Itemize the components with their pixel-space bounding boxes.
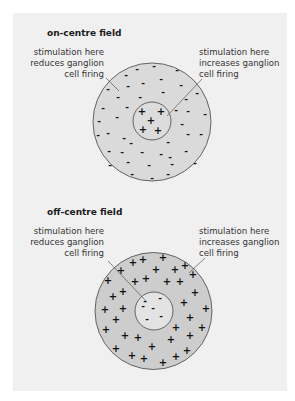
svg-text:-: - bbox=[179, 80, 183, 90]
off-right-label-line3: cell firing bbox=[199, 248, 239, 258]
svg-text:-: - bbox=[175, 65, 179, 75]
svg-text:+: + bbox=[142, 273, 150, 284]
svg-text:-: - bbox=[170, 159, 174, 169]
svg-text:-: - bbox=[107, 146, 111, 156]
svg-text:-: - bbox=[145, 314, 149, 324]
on-right-label-line2: increases ganglion bbox=[199, 58, 280, 68]
svg-text:+: + bbox=[119, 286, 127, 297]
svg-text:+: + bbox=[139, 124, 147, 135]
svg-text:+: + bbox=[157, 106, 165, 117]
svg-text:+: + bbox=[112, 343, 120, 354]
svg-text:+: + bbox=[139, 254, 147, 265]
svg-text:+: + bbox=[138, 106, 146, 117]
svg-text:-: - bbox=[180, 119, 184, 129]
svg-text:-: - bbox=[122, 133, 126, 143]
svg-text:+: + bbox=[128, 350, 136, 361]
svg-text:-: - bbox=[166, 169, 170, 179]
svg-text:+: + bbox=[180, 297, 188, 308]
svg-text:-: - bbox=[159, 311, 163, 321]
svg-text:-: - bbox=[147, 160, 151, 170]
svg-text:+: + bbox=[191, 287, 199, 298]
svg-text:+: + bbox=[154, 125, 162, 136]
svg-text:+: + bbox=[152, 264, 160, 275]
off-left-label-line1: stimulation here bbox=[34, 226, 104, 236]
svg-text:+: + bbox=[102, 324, 110, 335]
svg-text:+: + bbox=[159, 357, 167, 368]
svg-text:+: + bbox=[172, 351, 180, 362]
off-centre-field: off-centre field stimulation here reduce… bbox=[30, 207, 279, 370]
svg-text:+: + bbox=[202, 303, 210, 314]
svg-text:+: + bbox=[119, 303, 127, 314]
svg-text:-: - bbox=[135, 64, 139, 74]
svg-text:-: - bbox=[108, 160, 112, 170]
svg-text:+: + bbox=[186, 330, 194, 341]
svg-text:+: + bbox=[189, 269, 197, 280]
svg-text:+: + bbox=[159, 252, 167, 263]
svg-text:+: + bbox=[183, 345, 191, 356]
svg-text:+: + bbox=[198, 322, 206, 333]
svg-text:+: + bbox=[104, 275, 112, 286]
off-right-label-line2: increases ganglion bbox=[199, 237, 280, 247]
svg-text:-: - bbox=[106, 128, 110, 138]
svg-text:+: + bbox=[129, 257, 137, 268]
svg-text:-: - bbox=[140, 147, 144, 157]
off-right-label-line1: stimulation here bbox=[199, 226, 269, 236]
svg-text:-: - bbox=[126, 81, 130, 91]
svg-text:-: - bbox=[166, 137, 170, 147]
on-centre-field: on-centre field stimulation here reduces… bbox=[30, 28, 279, 183]
svg-text:+: + bbox=[140, 353, 148, 364]
svg-text:-: - bbox=[184, 94, 188, 104]
svg-text:-: - bbox=[115, 112, 119, 122]
off-left-label-line3: cell firing bbox=[64, 248, 104, 258]
svg-text:-: - bbox=[161, 87, 165, 97]
svg-text:-: - bbox=[193, 158, 197, 168]
off-left-label-line2: reduces ganglion bbox=[30, 237, 104, 247]
svg-text:-: - bbox=[138, 92, 142, 102]
svg-text:+: + bbox=[117, 265, 125, 276]
svg-text:-: - bbox=[120, 147, 124, 157]
on-centre-title: on-centre field bbox=[47, 28, 121, 38]
svg-text:-: - bbox=[101, 103, 105, 113]
svg-text:+: + bbox=[131, 276, 139, 287]
svg-text:-: - bbox=[141, 301, 145, 311]
svg-text:-: - bbox=[184, 146, 188, 156]
svg-text:+: + bbox=[121, 330, 129, 341]
svg-text:+: + bbox=[134, 332, 142, 343]
svg-text:+: + bbox=[109, 291, 117, 302]
svg-text:+: + bbox=[186, 312, 194, 323]
svg-text:-: - bbox=[141, 78, 145, 88]
on-left-label-line1: stimulation here bbox=[34, 47, 104, 57]
svg-text:+: + bbox=[101, 304, 109, 315]
svg-text:-: - bbox=[199, 129, 203, 139]
svg-text:-: - bbox=[97, 116, 101, 126]
svg-text:+: + bbox=[167, 334, 175, 345]
svg-text:-: - bbox=[124, 70, 128, 80]
svg-text:-: - bbox=[106, 84, 110, 94]
svg-text:+: + bbox=[163, 276, 171, 287]
svg-text:-: - bbox=[158, 293, 162, 303]
svg-text:+: + bbox=[171, 264, 179, 275]
svg-text:+: + bbox=[176, 276, 184, 287]
svg-text:-: - bbox=[159, 74, 163, 84]
on-left-label-line3: cell firing bbox=[64, 69, 104, 79]
svg-text:-: - bbox=[159, 149, 163, 159]
off-centre-title: off-centre field bbox=[47, 207, 122, 217]
svg-text:-: - bbox=[96, 130, 100, 140]
svg-text:-: - bbox=[186, 129, 190, 139]
svg-text:+: + bbox=[112, 314, 120, 325]
svg-text:+: + bbox=[148, 341, 156, 352]
svg-text:-: - bbox=[152, 61, 156, 71]
svg-text:-: - bbox=[116, 92, 120, 102]
svg-text:-: - bbox=[203, 109, 207, 119]
svg-text:-: - bbox=[195, 88, 199, 98]
svg-text:-: - bbox=[151, 303, 155, 313]
svg-text:-: - bbox=[125, 102, 129, 112]
on-right-label-line3: cell firing bbox=[199, 69, 239, 79]
svg-text:-: - bbox=[129, 138, 133, 148]
svg-text:-: - bbox=[186, 106, 190, 116]
on-left-label-line2: reduces ganglion bbox=[30, 58, 104, 68]
svg-text:-: - bbox=[130, 169, 134, 179]
svg-text:-: - bbox=[174, 105, 178, 115]
receptive-fields-diagram: on-centre field stimulation here reduces… bbox=[0, 0, 295, 401]
svg-text:-: - bbox=[126, 157, 130, 167]
